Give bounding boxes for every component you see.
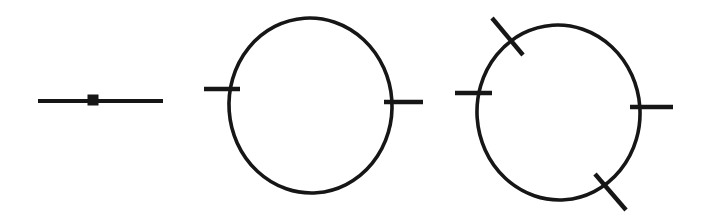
figure-canvas <box>0 0 704 218</box>
panel-2-one-loop-two-vertex <box>204 13 423 199</box>
square-vertex-marker <box>88 95 99 106</box>
panel-1-tree-level-propagator <box>38 95 163 106</box>
loop-ellipse <box>223 13 398 199</box>
panel-3-one-loop-four-vertex <box>455 18 673 210</box>
loop-ellipse <box>471 20 646 206</box>
feynman-diagram-figure <box>0 0 704 218</box>
